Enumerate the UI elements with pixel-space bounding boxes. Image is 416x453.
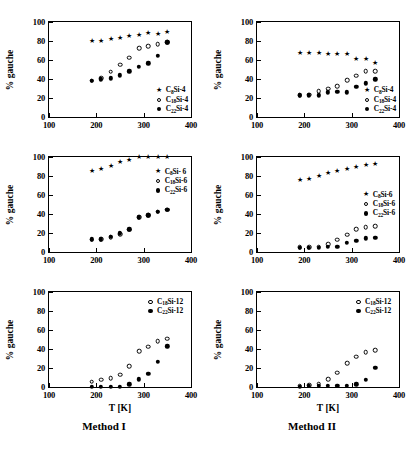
y-tick-label: 80 (37, 306, 45, 316)
data-point (137, 377, 141, 381)
data-point (364, 81, 368, 85)
x-tick (399, 248, 400, 252)
data-point (146, 344, 151, 349)
y-axis-title: % gauche (3, 291, 17, 388)
y-tick (257, 330, 261, 331)
data-point (108, 376, 113, 381)
data-point (316, 246, 320, 250)
x-tick (399, 113, 400, 117)
plot-frame: 020406080100100200300400 ★C8Si-4C18Si-4C… (48, 21, 192, 118)
x-tick (49, 248, 50, 252)
data-point (345, 361, 350, 366)
y-axis-title: % gauche (211, 291, 225, 388)
y-tick-label: 100 (33, 17, 45, 27)
star-marker-icon: ★ (155, 168, 162, 175)
y-tick (49, 368, 53, 369)
y-tick-label: 100 (33, 152, 45, 162)
data-point (99, 378, 104, 383)
x-tick (399, 383, 400, 387)
data-point (354, 85, 358, 89)
y-tick (49, 233, 53, 234)
y-tick-label: 40 (37, 209, 45, 219)
data-point (118, 372, 123, 377)
figure-root: % gauche 020406080100100200300400 ★C8Si-… (0, 0, 416, 453)
x-tick-label: 300 (138, 390, 150, 400)
y-tick (257, 214, 261, 215)
data-point (326, 377, 331, 382)
x-tick (96, 248, 97, 252)
data-point (127, 382, 131, 386)
y-tick (49, 41, 53, 42)
x-tick-label: 400 (185, 255, 197, 265)
y-tick-label: 100 (241, 17, 253, 27)
y-tick (257, 252, 261, 253)
data-point (364, 225, 369, 230)
legend-label: C22Si-4 (374, 104, 396, 114)
data-point (354, 354, 359, 359)
open-circle-marker-icon (364, 98, 371, 102)
data-point (373, 224, 378, 229)
y-tick (49, 98, 53, 99)
x-tick-label: 300 (346, 255, 358, 265)
y-tick (257, 368, 261, 369)
y-tick (49, 117, 53, 118)
data-point (326, 245, 330, 249)
data-point (345, 233, 350, 238)
data-point (335, 90, 339, 94)
data-point (316, 383, 320, 387)
y-tick (49, 214, 53, 215)
x-tick (191, 248, 192, 252)
y-tick-label: 40 (37, 74, 45, 84)
x-tick-label: 300 (138, 120, 150, 130)
y-tick-label: 20 (37, 93, 45, 103)
y-tick (49, 79, 53, 80)
data-point (127, 69, 131, 73)
data-point (373, 366, 377, 370)
x-tick (144, 248, 145, 252)
legend-item: C22Si-12 (355, 306, 391, 315)
open-circle-marker-icon (355, 300, 362, 304)
y-axis-title: % gauche (211, 156, 225, 253)
x-tick (257, 383, 258, 387)
y-tick (257, 176, 261, 177)
data-point (146, 61, 150, 65)
x-tick (352, 383, 353, 387)
x-tick (96, 383, 97, 387)
x-tick-label: 400 (185, 390, 197, 400)
data-point (156, 360, 160, 364)
data-point (118, 62, 123, 67)
y-tick-label: 40 (245, 344, 253, 354)
open-circle-marker-icon (155, 179, 162, 183)
legend-label: C22Si-12 (157, 306, 183, 316)
open-circle-marker-icon (363, 202, 370, 206)
data-point (146, 371, 150, 375)
legend: ★C8Si- 6C18Si-6C22Si-6 (155, 167, 187, 195)
legend-item: C22Si-6 (155, 186, 187, 195)
y-tick (257, 41, 261, 42)
y-tick (49, 349, 53, 350)
data-point (335, 383, 339, 387)
data-point (335, 245, 339, 249)
y-tick (49, 60, 53, 61)
data-point (156, 42, 161, 47)
data-point (118, 384, 122, 388)
data-point (354, 73, 359, 78)
x-tick-label: 300 (346, 120, 358, 130)
x-tick (191, 113, 192, 117)
plot-frame: 020406080100100200300400 ★C8Si-6C18Si-6C… (256, 156, 400, 253)
method-caption-2: Method II (208, 420, 416, 432)
y-tick (49, 195, 53, 196)
chart-panel-3-2: % gauche 020406080100100200300400 C18Si-… (208, 275, 416, 410)
x-tick (144, 383, 145, 387)
data-point (156, 339, 161, 344)
data-point (99, 384, 103, 388)
x-tick-label: 100 (251, 390, 263, 400)
x-tick (304, 113, 305, 117)
data-point (364, 69, 369, 74)
legend-item: C22Si-4 (156, 105, 188, 114)
y-tick-label: 40 (245, 74, 253, 84)
data-point (354, 227, 359, 232)
x-tick-label: 100 (251, 255, 263, 265)
y-tick-label: 80 (245, 171, 253, 181)
data-point (165, 336, 170, 341)
